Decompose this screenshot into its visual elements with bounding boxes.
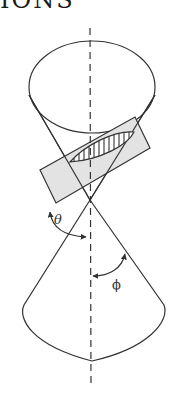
cone-axis <box>90 28 91 385</box>
theta-label: θ <box>54 212 62 227</box>
phi-label: ϕ <box>112 277 121 292</box>
lower-nappe <box>23 200 165 361</box>
double-cone-diagram: θ ϕ <box>0 0 183 395</box>
lower-nappe-outline <box>23 200 165 361</box>
phi-angle-arc: ϕ <box>93 254 125 292</box>
